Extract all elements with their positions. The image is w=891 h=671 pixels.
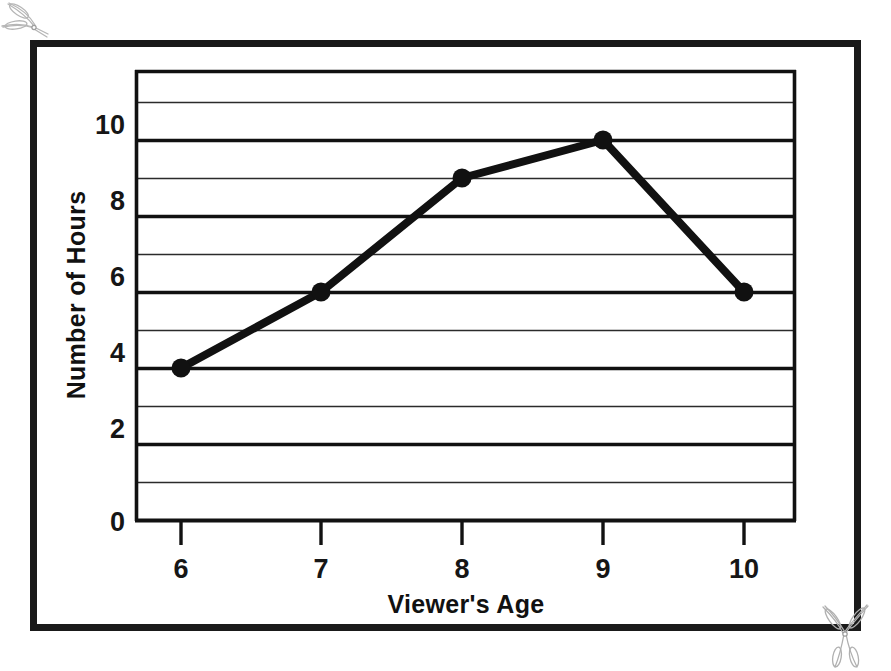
ytick-label: 2 <box>110 414 125 444</box>
ytick-label: 10 <box>95 110 125 140</box>
ytick-label: 6 <box>110 262 125 292</box>
xtick-label: 8 <box>454 554 469 584</box>
line-chart: 10 8 6 4 2 0 6 7 8 9 10 Viewer's Age Num… <box>0 0 891 671</box>
xaxis-ticks <box>181 521 744 545</box>
data-point <box>594 131 613 150</box>
xaxis-title: Viewer's Age <box>388 590 545 618</box>
ytick-label: 0 <box>110 507 125 537</box>
yaxis-title: Number of Hours <box>62 191 90 400</box>
yaxis-tick-labels: 10 8 6 4 2 0 <box>95 110 125 537</box>
xtick-label: 7 <box>313 554 328 584</box>
data-point <box>453 169 472 188</box>
xtick-label: 6 <box>173 554 188 584</box>
plot-frame <box>135 70 796 521</box>
xtick-label: 9 <box>595 554 610 584</box>
data-point <box>172 359 191 378</box>
ytick-label: 4 <box>110 338 125 368</box>
ytick-label: 8 <box>110 186 125 216</box>
data-point <box>735 283 754 302</box>
data-point <box>312 283 331 302</box>
xtick-label: 10 <box>729 554 759 584</box>
xaxis-tick-labels: 6 7 8 9 10 <box>173 554 759 584</box>
